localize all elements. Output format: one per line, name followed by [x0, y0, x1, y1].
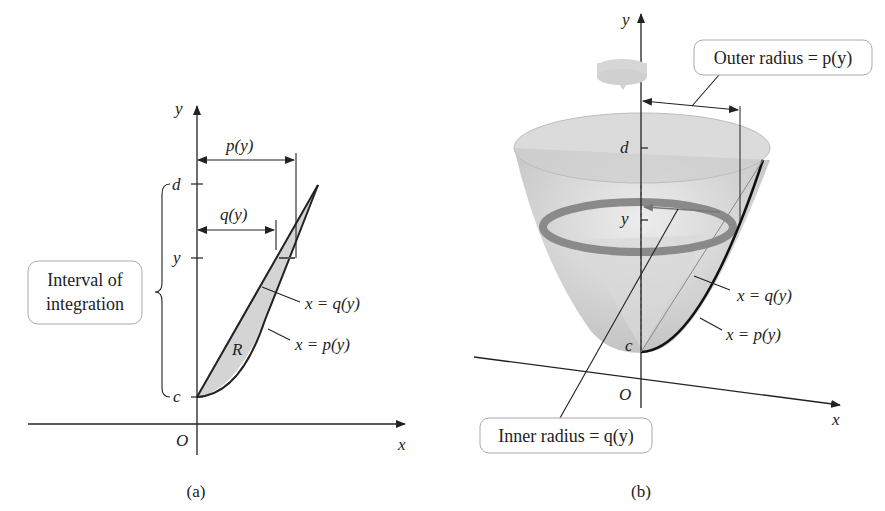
curve-q-label-a: x = q(y) [304, 294, 360, 313]
interval-box-line2: integration [46, 294, 124, 314]
caption-a: (a) [187, 482, 206, 501]
curve-p-label-a: x = p(y) [294, 335, 350, 354]
x-axis-label-a: x [397, 435, 406, 454]
outer-radius-label: Outer radius = p(y) [714, 48, 853, 69]
inner-radius-label: Inner radius = q(y) [498, 426, 634, 447]
interval-brace [155, 184, 170, 397]
panel-b: x y O d y c [474, 10, 872, 501]
origin-label-a: O [176, 431, 188, 450]
outer-radius-dimension [643, 101, 738, 110]
p-label-a: p(y) [225, 136, 254, 155]
origin-label-b: O [619, 385, 631, 404]
curve-p-label-b: x = p(y) [725, 325, 781, 344]
tick-d-b: d [620, 138, 629, 157]
panel-a: y x O d y c p(y) q(y) R x = q(y) x = p(y… [28, 99, 406, 501]
curve-q-label-b: x = q(y) [736, 286, 792, 305]
diagram-canvas: y x O d y c p(y) q(y) R x = q(y) x = p(y… [0, 0, 885, 511]
caption-b: (b) [631, 482, 651, 501]
tick-y-b: y [619, 209, 629, 228]
tick-c-b: c [625, 336, 633, 355]
region-label-r: R [231, 340, 243, 359]
tick-y-a: y [171, 248, 181, 267]
curve-q-a [197, 185, 318, 397]
y-axis-label-a: y [173, 99, 183, 118]
rotation-arrow-icon [597, 59, 647, 90]
x-axis-b [474, 357, 840, 405]
x-axis-label-b: x [831, 410, 840, 429]
tick-d-a: d [172, 175, 181, 194]
y-axis-label-b: y [620, 10, 630, 29]
q-label-a: q(y) [220, 205, 248, 224]
tick-c-a: c [173, 387, 181, 406]
interval-box-line1: Interval of [47, 270, 122, 290]
